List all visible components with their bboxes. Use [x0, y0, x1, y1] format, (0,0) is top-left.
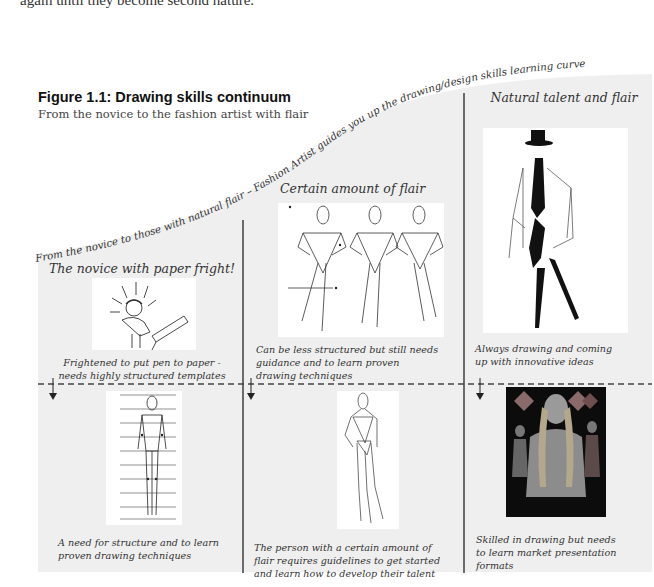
- column-heading-natural-talent: Natural talent and flair: [476, 90, 652, 105]
- column-heading-novice: The novice with paper fright!: [44, 261, 240, 276]
- image-stick-figures: [278, 203, 444, 337]
- image-frightened-novice: [92, 278, 196, 350]
- caption-natural-talent-bottom: Skilled in drawing but needs to learn ma…: [476, 533, 652, 572]
- caption-novice-top: Frightened to put pen to paper - needs h…: [44, 356, 240, 382]
- image-structured-template: [106, 391, 182, 525]
- column-heading-flair: Certain amount of flair: [280, 181, 460, 196]
- image-presentation-board: [506, 387, 606, 517]
- image-fashion-croquis: [337, 391, 399, 529]
- image-ink-fashion-sketch: [483, 128, 628, 333]
- caption-natural-talent-top: Always drawing and coming up with innova…: [475, 342, 651, 368]
- caption-novice-bottom: A need for structure and to learn proven…: [58, 536, 240, 562]
- caption-flair-bottom: The person with a certain amount of flai…: [254, 541, 462, 580]
- caption-flair-top: Can be less structured but still needs g…: [256, 343, 462, 382]
